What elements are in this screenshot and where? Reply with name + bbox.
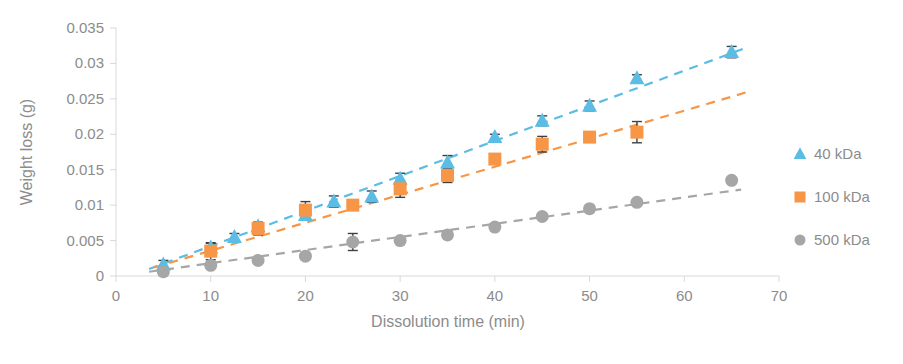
data-point-40-kda [629, 70, 644, 84]
data-point-500-kda [204, 259, 217, 272]
x-axis-ticks: 010203040506070 [112, 276, 788, 304]
data-point-500-kda [394, 234, 407, 247]
data-point-500-kda [725, 174, 738, 187]
y-tick-label: 0.025 [66, 90, 104, 107]
weight-loss-scatter-chart: 00.0050.010.0150.020.0250.030.035 010203… [0, 0, 903, 364]
y-tick-label: 0 [96, 267, 104, 284]
data-point-100-kda [204, 245, 217, 258]
y-tick-label: 0.015 [66, 161, 104, 178]
data-point-100-kda [441, 169, 454, 182]
y-tick-label: 0.03 [75, 54, 104, 71]
data-point-100-kda [394, 182, 407, 195]
data-point-100-kda [630, 126, 643, 139]
data-point-100-kda [583, 131, 596, 144]
legend-label-40-kda: 40 kDa [814, 145, 862, 162]
data-point-100-kda [299, 204, 312, 217]
y-tick-label: 0.035 [66, 19, 104, 36]
legend-label-100-kda: 100 kDa [814, 188, 871, 205]
legend-label-500-kda: 500 kDa [814, 231, 871, 248]
y-axis-title: Weight loss (g) [18, 99, 35, 205]
data-point-40-kda [535, 113, 550, 127]
data-point-500-kda [630, 196, 643, 209]
data-point-40-kda [364, 189, 379, 203]
x-tick-label: 10 [202, 287, 219, 304]
data-point-500-kda [157, 265, 170, 278]
data-point-500-kda [441, 228, 454, 241]
data-point-500-kda [252, 254, 265, 267]
data-point-500-kda [346, 235, 359, 248]
legend-marker-500-kda [795, 235, 806, 246]
y-tick-label: 0.01 [75, 196, 104, 213]
y-tick-label: 0.02 [75, 125, 104, 142]
x-tick-label: 30 [392, 287, 409, 304]
legend-marker-100-kda [795, 192, 806, 203]
data-point-40-kda [582, 98, 597, 112]
x-axis-title: Dissolution time (min) [371, 313, 525, 330]
legend-marker-40-kda [794, 147, 807, 159]
x-tick-label: 70 [771, 287, 788, 304]
x-tick-label: 50 [581, 287, 598, 304]
data-point-500-kda [488, 221, 501, 234]
data-point-100-kda [346, 199, 359, 212]
x-tick-label: 20 [297, 287, 314, 304]
data-point-500-kda [583, 202, 596, 215]
data-point-100-kda [252, 222, 265, 235]
chart-container: 00.0050.010.0150.020.0250.030.035 010203… [0, 0, 903, 364]
data-point-100-kda [536, 138, 549, 151]
x-tick-label: 40 [487, 287, 504, 304]
data-point-40-kda [487, 129, 502, 143]
y-tick-label: 0.005 [66, 232, 104, 249]
chart-legend: 40 kDa100 kDa500 kDa [794, 145, 871, 248]
x-tick-label: 0 [112, 287, 120, 304]
data-markers [156, 44, 739, 278]
data-point-100-kda [488, 153, 501, 166]
data-point-40-kda [326, 193, 341, 207]
data-point-500-kda [299, 250, 312, 263]
y-axis-ticks: 00.0050.010.0150.020.0250.030.035 [66, 19, 116, 284]
data-point-500-kda [536, 210, 549, 223]
x-tick-label: 60 [676, 287, 693, 304]
